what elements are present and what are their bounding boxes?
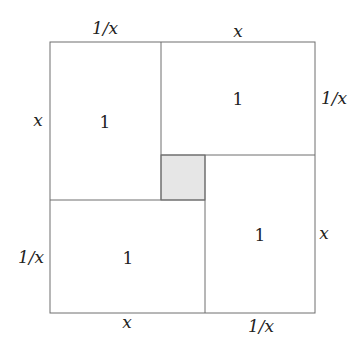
- top-right-width-label: x: [233, 23, 243, 40]
- bottom-left-width-label: x: [122, 314, 132, 331]
- left-upper-height-label: x: [33, 112, 43, 129]
- top-left-width-label: 1/x: [92, 20, 118, 37]
- right-lower-height-label: x: [319, 225, 329, 242]
- area-bottom-right-label: 1: [255, 227, 266, 244]
- area-bottom-left-label: 1: [123, 250, 134, 267]
- diagram-canvas: [0, 0, 363, 356]
- center-square-shaded: [161, 155, 205, 200]
- right-upper-height-label: 1/x: [321, 90, 347, 107]
- bottom-right-width-label: 1/x: [248, 318, 274, 335]
- left-lower-height-label: 1/x: [18, 249, 44, 266]
- area-top-left-label: 1: [100, 114, 111, 131]
- area-top-right-label: 1: [233, 91, 244, 108]
